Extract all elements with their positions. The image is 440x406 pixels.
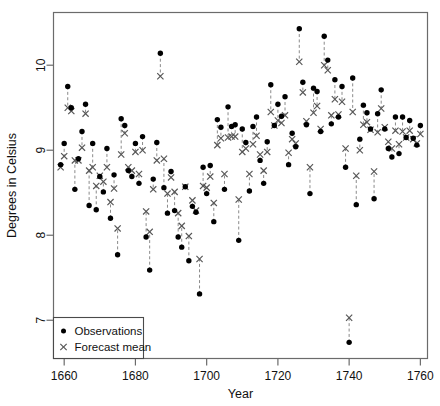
observation-marker	[304, 122, 309, 127]
observation-marker	[375, 111, 380, 116]
y-tick-label: 7	[35, 317, 49, 324]
observation-marker	[386, 146, 391, 151]
x-tick-label: 1760	[407, 369, 434, 383]
observation-marker	[286, 162, 291, 167]
observation-marker	[208, 163, 213, 168]
observation-marker	[254, 114, 259, 119]
observation-marker	[161, 185, 166, 190]
observation-marker	[265, 139, 270, 144]
observation-marker	[232, 122, 237, 127]
x-tick-label: 1740	[336, 369, 363, 383]
observation-marker	[175, 234, 180, 239]
observation-marker	[97, 174, 102, 179]
forecast-marker	[357, 147, 363, 153]
forecast-marker	[168, 174, 174, 180]
observation-marker	[361, 102, 366, 107]
observation-marker	[275, 102, 280, 107]
forecast-marker	[257, 151, 263, 157]
observation-marker	[411, 136, 416, 141]
forecast-marker	[147, 229, 153, 235]
forecast-marker	[107, 199, 113, 205]
observation-marker	[346, 340, 351, 345]
legend-marker-observations	[61, 329, 66, 334]
observation-marker	[314, 89, 319, 94]
forecast-marker	[79, 145, 85, 151]
observation-marker	[215, 117, 220, 122]
observation-marker	[172, 208, 177, 213]
observation-marker	[354, 202, 359, 207]
observation-marker	[86, 203, 91, 208]
observation-marker	[250, 124, 255, 129]
observation-marker	[179, 244, 184, 249]
observation-marker	[343, 165, 348, 170]
forecast-marker	[154, 157, 160, 163]
observation-marker	[257, 158, 262, 163]
observation-marker	[364, 110, 369, 115]
observation-marker	[339, 84, 344, 89]
observation-marker	[293, 144, 298, 149]
legend-label-observations: Observations	[75, 325, 143, 337]
observation-marker	[190, 204, 195, 209]
observation-marker	[200, 165, 205, 170]
observation-marker	[122, 123, 127, 128]
observation-marker	[247, 188, 252, 193]
observation-marker	[261, 181, 266, 186]
observation-marker	[129, 174, 134, 179]
observation-marker	[332, 77, 337, 82]
legend-label-forecast-mean: Forecast mean	[75, 341, 152, 353]
x-tick-label: 1660	[51, 369, 78, 383]
observation-marker	[165, 210, 170, 215]
forecast-marker	[232, 134, 238, 140]
observation-marker	[154, 140, 159, 145]
observation-marker	[90, 141, 95, 146]
x-tick-label: 1680	[122, 369, 149, 383]
observation-marker	[350, 75, 355, 80]
plot-border	[54, 13, 428, 359]
observation-marker	[101, 189, 106, 194]
observation-marker	[118, 116, 123, 121]
observation-marker	[79, 129, 84, 134]
forecast-marker	[296, 59, 302, 65]
x-tick-label: 1720	[265, 369, 292, 383]
forecast-marker	[161, 156, 167, 162]
observation-marker	[108, 216, 113, 221]
observations-series	[58, 26, 423, 345]
forecast-marker	[353, 173, 359, 179]
observation-marker	[297, 26, 302, 31]
observation-marker	[414, 142, 419, 147]
forecast-marker	[243, 145, 249, 151]
observation-marker	[400, 114, 405, 119]
observation-marker	[69, 105, 74, 110]
observation-marker	[407, 118, 412, 123]
forecast-marker	[61, 153, 67, 159]
forecast-marker	[207, 173, 213, 179]
observation-marker	[104, 146, 109, 151]
observation-marker	[418, 123, 423, 128]
observation-marker	[58, 162, 63, 167]
observation-marker	[403, 135, 408, 140]
observation-marker	[329, 121, 334, 126]
observation-marker	[168, 169, 173, 174]
forecast-marker	[285, 150, 291, 156]
observation-marker	[140, 134, 145, 139]
observation-marker	[389, 154, 394, 159]
observation-marker	[243, 140, 248, 145]
observation-marker	[61, 141, 66, 146]
observation-marker	[126, 168, 131, 173]
observation-marker	[393, 114, 398, 119]
observation-marker	[325, 57, 330, 62]
forecast-marker	[371, 168, 377, 174]
forecast-marker	[250, 141, 256, 147]
observation-marker	[197, 291, 202, 296]
temperature-forecast-chart: 16601680170017201740176078910YearDegrees…	[0, 0, 440, 406]
observation-marker	[136, 181, 141, 186]
y-tick-label: 10	[35, 58, 49, 72]
observation-marker	[357, 136, 362, 141]
observation-marker	[158, 51, 163, 56]
x-tick-label: 1700	[193, 369, 220, 383]
observation-marker	[211, 219, 216, 224]
forecast-marker	[278, 120, 284, 126]
observation-marker	[94, 207, 99, 212]
observation-marker	[378, 87, 383, 92]
observation-marker	[83, 102, 88, 107]
